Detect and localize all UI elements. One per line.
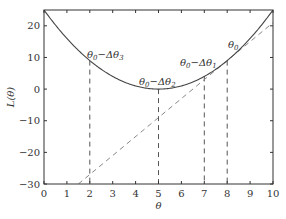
axes: 012345678910−30−20−1001020θL(θ) [5,10,279,211]
y-tick-label: −10 [19,115,40,126]
y-axis-label: L(θ) [5,87,16,109]
x-axis-label: θ [155,200,161,211]
x-tick-label: 10 [267,188,280,199]
x-tick-label: 6 [178,188,184,199]
y-tick-label: −30 [19,179,40,190]
y-tick-label: 10 [27,52,40,63]
annotations: θ0−Δθ3θ0−Δθ2θ0−Δθ1θ0 [87,39,239,89]
x-tick-label: 0 [41,188,47,199]
plot-area [44,10,273,184]
chart: 012345678910−30−20−1001020θL(θ) θ0−Δθ3θ0… [0,0,286,219]
x-tick-label: 9 [247,188,253,199]
x-tick-label: 3 [110,188,116,199]
x-tick-label: 1 [64,188,70,199]
x-tick-label: 2 [87,188,93,199]
x-tick-label: 8 [224,188,230,199]
y-tick-label: 0 [34,84,40,95]
x-tick-label: 7 [201,188,207,199]
tangent-line [78,23,273,184]
annotation-ann3: θ0−Δθ3 [87,49,124,62]
y-tick-label: 20 [27,20,40,31]
x-tick-label: 4 [132,188,138,199]
annotation-ann0: θ0 [228,39,239,52]
plot-frame [44,10,273,184]
annotation-ann1: θ0−Δθ1 [180,57,217,70]
x-tick-label: 5 [155,188,161,199]
annotation-ann2: θ0−Δθ2 [139,76,176,89]
y-tick-label: −20 [19,147,40,158]
